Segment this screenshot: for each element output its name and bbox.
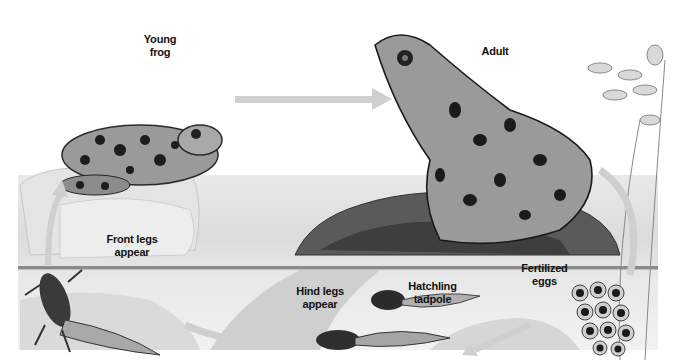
arrow-young-to-adult — [235, 88, 392, 110]
label-line: Young — [130, 33, 190, 46]
label-line: Adult — [470, 45, 520, 58]
label-line: eggs — [512, 275, 577, 288]
label-hind-legs: Hind legs appear — [290, 285, 350, 311]
label-line: Hind legs — [290, 285, 350, 298]
label-adult: Adult — [470, 45, 520, 58]
label-line: appear — [97, 246, 167, 259]
label-line: Fertilized — [512, 262, 577, 275]
tadpole-hind-legs-illustration — [316, 330, 450, 350]
label-line: frog — [130, 46, 190, 59]
label-line: Hatchling — [400, 280, 465, 293]
label-hatchling-tadpole: Hatchling tadpole — [400, 280, 465, 306]
frog-life-cycle-diagram: Young frog Adult Front legs appear Hind … — [0, 0, 675, 363]
label-front-legs: Front legs appear — [97, 233, 167, 259]
label-fertilized-eggs: Fertilized eggs — [512, 262, 577, 288]
label-line: tadpole — [400, 293, 465, 306]
label-line: Front legs — [97, 233, 167, 246]
young-frog-illustration — [60, 125, 222, 195]
label-young-frog: Young frog — [130, 33, 190, 59]
fertilized-eggs-illustration — [572, 282, 634, 356]
label-line: appear — [290, 298, 350, 311]
